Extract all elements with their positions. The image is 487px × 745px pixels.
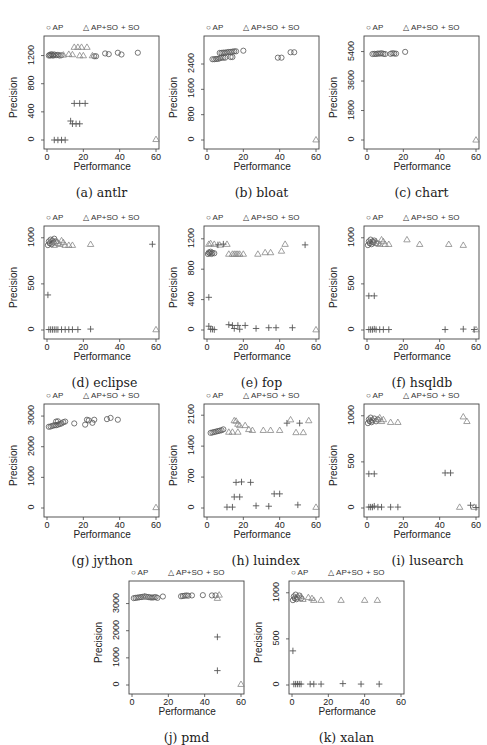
series-so (366, 470, 480, 511)
x-axis-title: Performance (394, 161, 451, 172)
y-tick-label: 1800 (346, 95, 356, 125)
y-tick-label: 500 (26, 268, 36, 298)
y-axis-title: Precision (328, 266, 339, 307)
series-ap-so (313, 136, 319, 141)
series-so (366, 293, 478, 333)
x-axis-title: Performance (394, 351, 451, 362)
x-tick-label: 0 (40, 342, 54, 352)
x-axis-title: Performance (74, 161, 131, 172)
y-axis-title: Precision (168, 444, 179, 485)
scatter-panel-j: ○ AP△ AP+SO+ SO02040600100020003000Perfo… (85, 545, 245, 720)
x-tick-label: 60 (394, 697, 408, 707)
x-axis-title: Performance (234, 161, 291, 172)
y-tick-label: 500 (271, 623, 281, 653)
x-tick-label: 0 (200, 520, 214, 530)
series-ap (210, 48, 297, 62)
y-tick-label: 0 (346, 124, 356, 154)
series-so (206, 241, 309, 333)
y-tick-label: 400 (186, 284, 196, 314)
y-tick-label: 500 (346, 446, 356, 476)
x-tick-label: 0 (285, 697, 299, 707)
y-tick-label: 0 (186, 492, 196, 522)
y-tick-label: 1200 (186, 223, 196, 253)
x-axis-title: Performance (319, 706, 376, 717)
scatter-panel-g: ○ AP△ AP+SO+ SO02040600100020003000Perfo… (0, 368, 160, 543)
x-axis-title: Performance (394, 529, 451, 540)
y-tick-label: 1000 (346, 222, 356, 252)
scatter-panel-k: ○ AP△ AP+SO+ SO020406005001000Performanc… (245, 545, 405, 720)
x-tick-label: 0 (40, 520, 54, 530)
x-axis-title: Performance (234, 351, 291, 362)
series-ap-so (375, 413, 478, 509)
y-tick-label: 400 (26, 96, 36, 126)
y-axis-title: Precision (8, 444, 19, 485)
x-tick-label: 0 (200, 342, 214, 352)
y-tick-label: 1000 (26, 461, 36, 491)
panel-caption: (j) pmd (157, 730, 217, 745)
x-axis-title: Performance (159, 706, 216, 717)
y-axis-title: Precision (328, 76, 339, 117)
y-tick-label: 1000 (111, 642, 121, 672)
x-axis-title: Performance (234, 529, 291, 540)
series-ap (208, 427, 226, 436)
y-axis-title: Precision (8, 266, 19, 307)
y-tick-label: 0 (111, 669, 121, 699)
y-axis-title: Precision (93, 621, 104, 662)
y-tick-label: 1000 (271, 577, 281, 607)
y-tick-label: 3000 (26, 400, 36, 430)
series-ap-so (298, 593, 381, 602)
y-tick-label: 2100 (186, 399, 196, 429)
scatter-panel-d: ○ AP△ AP+SO+ SO020406005001000Performanc… (0, 190, 160, 365)
y-axis-title: Precision (328, 444, 339, 485)
series-ap-so (373, 236, 479, 331)
series-ap-so (473, 137, 479, 142)
series-ap-so (51, 237, 159, 331)
scatter-panel-b: ○ AP△ AP+SO+ SO0204060080016002400Perfor… (160, 0, 320, 175)
y-tick-label: 3600 (346, 65, 356, 95)
scatter-panel-e: ○ AP△ AP+SO+ SO020406004008001200Perform… (160, 190, 320, 365)
scatter-panel-i: ○ AP△ AP+SO+ SO020406005001000Performanc… (320, 368, 480, 543)
x-tick-label: 60 (469, 152, 483, 162)
panel-caption: (k) xalan (317, 730, 377, 745)
series-ap-so (142, 592, 245, 687)
scatter-panel-h: ○ AP△ AP+SO+ SO0204060070014002100Perfor… (160, 368, 320, 543)
x-tick-label: 0 (125, 697, 139, 707)
x-tick-label: 60 (469, 520, 483, 530)
y-axis-title: Precision (253, 621, 264, 662)
series-so (214, 634, 220, 674)
y-tick-label: 800 (26, 68, 36, 98)
x-tick-label: 0 (360, 342, 374, 352)
y-axis-title: Precision (168, 266, 179, 307)
x-tick-label: 0 (360, 520, 374, 530)
series-so (51, 100, 88, 143)
y-tick-label: 0 (346, 492, 356, 522)
y-tick-label: 500 (346, 268, 356, 298)
series-ap-so (206, 240, 320, 332)
x-tick-label: 60 (469, 342, 483, 352)
y-tick-label: 800 (186, 253, 196, 283)
y-tick-label: 2400 (186, 48, 196, 78)
scatter-panel-a: ○ AP△ AP+SO+ SO020406004008001200Perform… (0, 0, 160, 175)
y-tick-label: 0 (26, 492, 36, 522)
y-tick-label: 1400 (186, 430, 196, 460)
series-ap-so (60, 44, 159, 142)
y-tick-label: 1000 (26, 222, 36, 252)
x-tick-label: 0 (200, 152, 214, 162)
y-tick-label: 1000 (346, 400, 356, 430)
y-tick-label: 800 (186, 99, 196, 129)
scatter-panel-f: ○ AP△ AP+SO+ SO020406005001000Performanc… (320, 190, 480, 365)
y-tick-label: 0 (26, 124, 36, 154)
y-tick-label: 0 (186, 314, 196, 344)
y-tick-label: 1200 (26, 40, 36, 70)
series-so (290, 648, 383, 688)
y-axis-title: Precision (168, 76, 179, 117)
series-ap (46, 415, 120, 429)
y-axis-title: Precision (8, 76, 19, 117)
series-ap (370, 49, 408, 56)
y-tick-label: 3000 (111, 588, 121, 618)
series-ap-so (153, 504, 159, 509)
y-tick-label: 2000 (111, 615, 121, 645)
x-axis-title: Performance (74, 529, 131, 540)
y-tick-label: 5400 (346, 36, 356, 66)
x-tick-label: 0 (40, 152, 54, 162)
